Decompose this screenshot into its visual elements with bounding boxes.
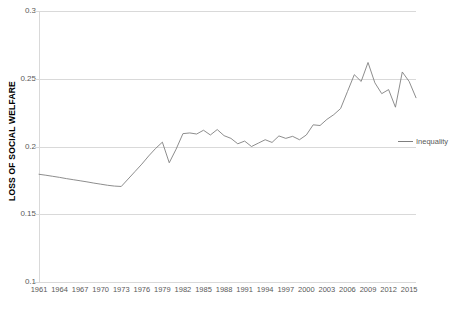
y-axis-tick-labels: 0.10.150.20.250.3 (14, 0, 36, 282)
x-axis-tick-label: 1976 (133, 286, 150, 294)
y-axis-tick-mark (35, 282, 39, 283)
x-axis-tick-label: 2012 (380, 286, 397, 294)
y-axis-tick-mark (35, 11, 39, 12)
chart-container: LOSS OF SOCIAL WELFARE 0.10.150.20.250.3… (0, 0, 456, 316)
y-axis-tick-mark (35, 79, 39, 80)
x-axis-tick-label: 2000 (298, 286, 315, 294)
x-axis-tick-label: 1973 (113, 286, 130, 294)
data-series-inequality (39, 11, 416, 282)
x-axis-tick-label: 1982 (175, 286, 192, 294)
x-axis-tick-label: 2009 (360, 286, 377, 294)
y-axis-tick-label: 0.25 (14, 75, 36, 83)
x-axis-tick-labels: 1961196419671970197319761979198219851988… (39, 286, 416, 300)
x-axis-tick-label: 1967 (72, 286, 89, 294)
y-axis-tick-label: 0.2 (14, 143, 36, 151)
x-axis-tick-label: 1988 (216, 286, 233, 294)
y-axis-tick-mark (35, 214, 39, 215)
y-axis-tick-label: 0.3 (14, 7, 36, 15)
line-inequality (39, 62, 416, 186)
chart-legend: Inequality (398, 138, 448, 146)
x-axis-tick-label: 2015 (401, 286, 418, 294)
x-axis-tick-label: 2003 (319, 286, 336, 294)
legend-line-marker-inequality (398, 141, 413, 142)
x-axis-tick-label: 1994 (257, 286, 274, 294)
x-axis-tick-label: 1991 (236, 286, 253, 294)
legend-label-inequality: Inequality (416, 138, 448, 146)
x-axis-tick-label: 1979 (154, 286, 171, 294)
x-axis-tick-label: 1997 (277, 286, 294, 294)
gridline-y (39, 282, 416, 283)
x-axis-tick-label: 1964 (51, 286, 68, 294)
plot-area (39, 11, 416, 282)
y-axis-tick-mark (35, 147, 39, 148)
x-axis-tick-label: 1961 (31, 286, 48, 294)
x-axis-tick-label: 2006 (339, 286, 356, 294)
y-axis-tick-label: 0.15 (14, 210, 36, 218)
x-axis-tick-label: 1985 (195, 286, 212, 294)
x-axis-tick-label: 1970 (92, 286, 109, 294)
